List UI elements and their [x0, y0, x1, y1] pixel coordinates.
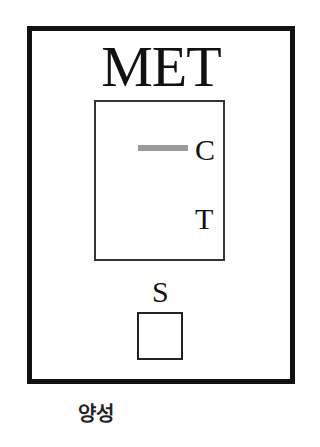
result-window: C T: [94, 100, 225, 261]
test-line-label: T: [195, 204, 213, 234]
result-caption: 양성: [78, 402, 114, 426]
sample-well: [137, 312, 183, 360]
control-line-label: C: [195, 135, 215, 165]
cassette-title: MET: [32, 37, 290, 97]
test-cassette: MET C T S: [27, 26, 295, 384]
sample-well-label: S: [152, 277, 169, 307]
control-line-band: [138, 145, 188, 151]
